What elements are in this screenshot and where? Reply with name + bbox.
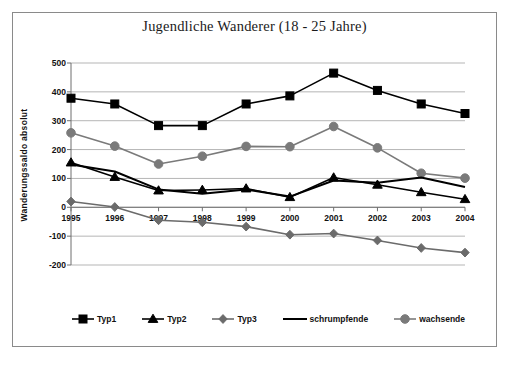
data-point-circle bbox=[67, 129, 76, 138]
data-point-diamond bbox=[198, 218, 206, 227]
chart-legend: Typ1Typ2Typ3schrumpfendewachsende bbox=[71, 310, 465, 328]
data-point-square bbox=[79, 315, 87, 323]
data-point-diamond bbox=[373, 236, 381, 245]
y-tick-label: 400 bbox=[52, 87, 66, 97]
series-typ2 bbox=[66, 158, 470, 203]
data-point-triangle bbox=[241, 184, 251, 192]
data-point-circle bbox=[154, 160, 163, 169]
chart-figure: Jugendliche Wanderer (18 - 25 Jahre) Wan… bbox=[0, 0, 509, 371]
legend-item-typ2[interactable]: Typ2 bbox=[141, 313, 186, 325]
y-axis-title: Wanderungssaldo absolut bbox=[19, 95, 29, 235]
series-line bbox=[71, 202, 465, 253]
data-point-square bbox=[286, 92, 294, 100]
data-point-square bbox=[242, 100, 250, 108]
data-point-triangle bbox=[329, 173, 339, 181]
y-tick-label: 100 bbox=[52, 173, 66, 183]
legend-item-wachsende[interactable]: wachsende bbox=[393, 313, 465, 325]
data-point-diamond bbox=[111, 203, 119, 212]
legend-label: wachsende bbox=[419, 315, 465, 324]
series-schrumpfende bbox=[71, 165, 465, 197]
series-line bbox=[71, 73, 465, 126]
data-point-square bbox=[373, 86, 381, 94]
data-point-square bbox=[111, 100, 119, 108]
series-line bbox=[71, 126, 465, 178]
y-tick-label: 300 bbox=[52, 116, 66, 126]
data-point-diamond bbox=[242, 222, 250, 231]
legend-label: Typ2 bbox=[167, 315, 186, 324]
y-tick-label: 500 bbox=[52, 58, 66, 68]
data-point-diamond bbox=[417, 244, 425, 253]
chart-title: Jugendliche Wanderer (18 - 25 Jahre) bbox=[0, 18, 509, 35]
y-tick-label: -100 bbox=[49, 231, 66, 241]
legend-swatch-none-icon bbox=[282, 313, 308, 325]
data-point-square bbox=[198, 122, 206, 130]
y-tick-label: 200 bbox=[52, 145, 66, 155]
data-point-square bbox=[461, 110, 469, 118]
legend-swatch-triangle-icon bbox=[141, 313, 165, 325]
plot-area: 5004003002001000-100-200 199519961997199… bbox=[71, 63, 465, 265]
data-point-circle bbox=[461, 174, 470, 183]
legend-label: Typ3 bbox=[237, 315, 256, 324]
legend-item-typ1[interactable]: Typ1 bbox=[71, 313, 116, 325]
legend-item-schrumpfende[interactable]: schrumpfende bbox=[282, 313, 369, 325]
data-point-square bbox=[67, 94, 75, 102]
series-wachsende bbox=[67, 122, 470, 182]
series-typ3 bbox=[67, 197, 469, 257]
data-point-square bbox=[417, 100, 425, 108]
data-point-circle bbox=[329, 122, 338, 131]
data-point-square bbox=[330, 69, 338, 77]
data-point-diamond bbox=[286, 230, 294, 239]
y-tick-label: 0 bbox=[61, 202, 66, 212]
y-tick-label: -200 bbox=[49, 260, 66, 270]
data-point-circle bbox=[198, 152, 207, 161]
data-point-circle bbox=[242, 142, 251, 151]
data-point-diamond bbox=[219, 315, 227, 324]
data-point-square bbox=[155, 122, 163, 130]
chart-plot-svg bbox=[71, 63, 465, 265]
data-point-circle bbox=[286, 142, 295, 151]
legend-item-typ3[interactable]: Typ3 bbox=[211, 313, 256, 325]
legend-swatch-circle-icon bbox=[393, 313, 417, 325]
legend-label: Typ1 bbox=[97, 315, 116, 324]
data-point-circle bbox=[417, 169, 426, 178]
legend-swatch-square-icon bbox=[71, 313, 95, 325]
series-line bbox=[71, 165, 465, 197]
data-point-circle bbox=[401, 315, 410, 324]
legend-label: schrumpfende bbox=[310, 315, 369, 324]
data-point-circle bbox=[110, 142, 119, 151]
data-point-diamond bbox=[154, 216, 162, 225]
legend-swatch-diamond-icon bbox=[211, 313, 235, 325]
data-point-circle bbox=[373, 144, 382, 153]
